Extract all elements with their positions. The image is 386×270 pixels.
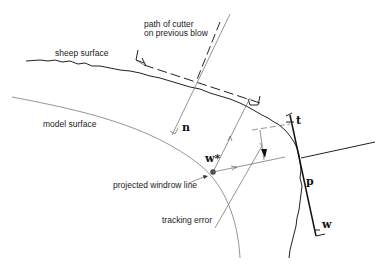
p-symbol: p (306, 175, 314, 188)
t-symbol: t (296, 114, 302, 127)
w-star-symbol: w* (204, 152, 220, 165)
n-symbol: n (182, 121, 190, 134)
tracking-error-line (215, 146, 262, 228)
model-surface-label: model surface (43, 119, 97, 129)
p-line (301, 142, 375, 158)
cutter-path-label-2: on previous blow (144, 28, 209, 38)
projection-line (213, 157, 285, 172)
w-symbol: w (321, 218, 332, 231)
sheep-surface-label: sheep surface (55, 48, 109, 58)
tracking-error-arrow (261, 149, 267, 158)
tracking-error-bracket (260, 130, 264, 160)
tracking-error-label: tracking error (162, 215, 212, 225)
diagram-canvas: path of cutter on previous blow sheep su… (0, 0, 386, 270)
projected-windrow-label: projected windrow line (113, 180, 197, 190)
projected-windrow-arrow (203, 175, 208, 179)
sheep-surface-curve (26, 60, 302, 258)
